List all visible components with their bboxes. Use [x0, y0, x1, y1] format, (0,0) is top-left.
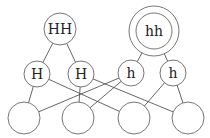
diagram-canvas: HHhhHHhh: [0, 0, 210, 138]
node-hh: hh: [129, 6, 179, 56]
node-circle: [118, 102, 150, 134]
node-h1: h: [118, 60, 144, 86]
node-h2: h: [160, 60, 186, 86]
node-label: H: [75, 66, 87, 82]
nodes-layer: HHhhHHhh: [8, 6, 204, 134]
node-label: h: [126, 65, 135, 81]
node-label: h: [168, 65, 177, 81]
node-label: HH: [48, 21, 72, 37]
node-label: hh: [145, 23, 163, 39]
node-circle: [8, 102, 40, 134]
node-h1: H: [24, 61, 50, 87]
genotype-tree-diagram: HHhhHHhh: [0, 0, 210, 138]
node-circle: [172, 102, 204, 134]
node-h2: H: [68, 61, 94, 87]
node-b2: [62, 102, 94, 134]
node-label: H: [31, 66, 43, 82]
node-b4: [172, 102, 204, 134]
node-hh: HH: [44, 13, 76, 45]
node-circle: [62, 102, 94, 134]
node-b3: [118, 102, 150, 134]
node-b1: [8, 102, 40, 134]
